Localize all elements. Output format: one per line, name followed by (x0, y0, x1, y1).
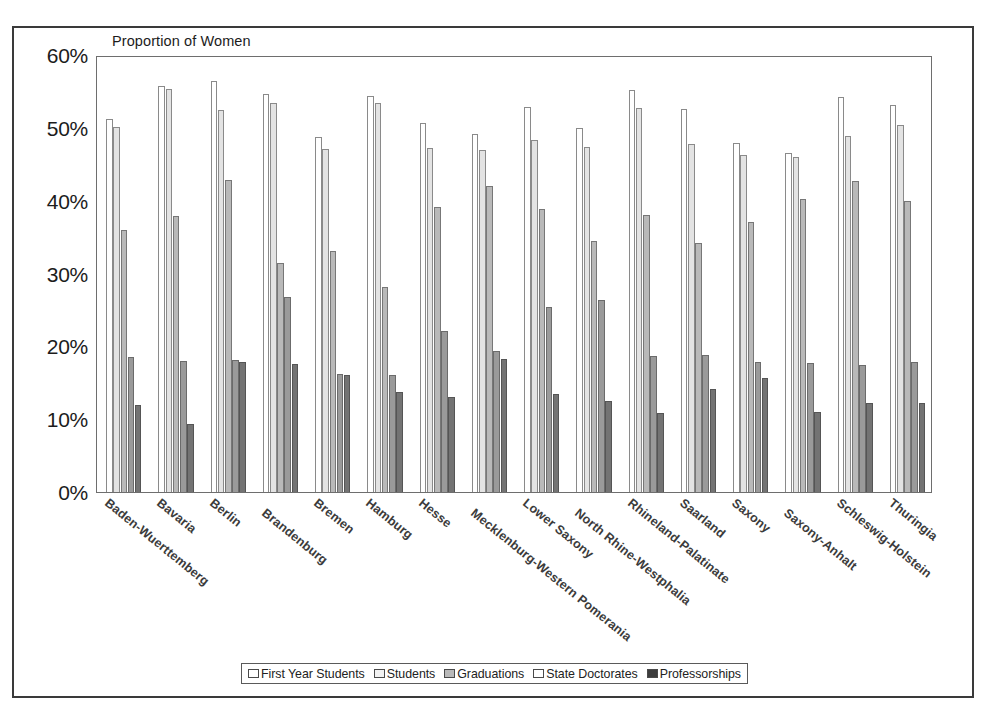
bar (239, 362, 246, 492)
y-axis-tick: 20% (47, 335, 88, 359)
bar-group (785, 57, 821, 492)
bar (584, 147, 591, 492)
y-axis: 0%10%20%30%40%50%60% (30, 56, 92, 493)
bar (263, 94, 270, 492)
bar (800, 199, 807, 492)
bar-group (733, 57, 769, 492)
bar (650, 356, 657, 492)
bar (904, 201, 911, 492)
bar (890, 105, 897, 492)
bar (420, 123, 427, 492)
bar (852, 181, 859, 492)
bar-group (890, 57, 926, 492)
figure-caption (16, 703, 956, 726)
bar-group (524, 57, 560, 492)
bar (911, 362, 918, 492)
bar (838, 97, 845, 492)
bar (748, 222, 755, 492)
bar (605, 401, 612, 492)
legend-label: State Doctorates (546, 667, 638, 681)
bar (322, 149, 329, 492)
bar (441, 331, 448, 492)
bar (375, 103, 382, 492)
bar (553, 394, 560, 492)
bar (598, 300, 605, 492)
bar (315, 137, 322, 492)
legend-swatch-icon (444, 669, 455, 678)
bar (501, 359, 508, 492)
bar (211, 81, 218, 492)
legend-item: Students (374, 667, 436, 681)
bars-container (97, 57, 931, 492)
bar-group (158, 57, 194, 492)
bar (695, 243, 702, 492)
bar (448, 397, 455, 492)
y-axis-tick: 40% (47, 190, 88, 214)
bar-group (263, 57, 299, 492)
y-axis-tick: 30% (47, 263, 88, 287)
legend-swatch-icon (533, 669, 544, 678)
bar (814, 412, 821, 492)
bar (710, 389, 717, 492)
legend-label: Graduations (457, 667, 524, 681)
bar-group (367, 57, 403, 492)
bar (636, 108, 643, 492)
bar (733, 143, 740, 492)
legend-swatch-icon (647, 669, 658, 678)
bar (173, 216, 180, 492)
bar (657, 413, 664, 492)
legend-label: First Year Students (261, 667, 365, 681)
bar (270, 103, 277, 492)
y-axis-tick: 50% (47, 117, 88, 141)
bar (546, 307, 553, 492)
legend-label: Students (387, 667, 436, 681)
x-axis-label: Berlin (207, 496, 244, 530)
bar (225, 180, 232, 492)
legend-item: State Doctorates (533, 667, 638, 681)
bar (629, 90, 636, 492)
bar-group (211, 57, 247, 492)
bar (486, 186, 493, 492)
bar (493, 351, 500, 492)
bar (807, 363, 814, 492)
x-axis-label: Bremen (311, 496, 357, 537)
bar-group (681, 57, 717, 492)
bar-group (576, 57, 612, 492)
bar (232, 360, 239, 492)
bar (576, 128, 583, 492)
bar (643, 215, 650, 492)
legend-item: Graduations (444, 667, 524, 681)
bar-group (629, 57, 665, 492)
bar (762, 378, 769, 492)
bar (688, 144, 695, 492)
bar (337, 374, 344, 492)
bar (702, 355, 709, 492)
chart-title: Proportion of Women (112, 33, 251, 49)
bar (166, 89, 173, 492)
x-axis-label: Brandenburg (259, 506, 330, 567)
x-axis-label: Hesse (416, 496, 454, 531)
bar (897, 125, 904, 492)
x-axis-label: Saxony (729, 496, 773, 535)
x-axis-label: Saarland (677, 496, 728, 541)
bar-group (420, 57, 456, 492)
bar (427, 148, 434, 493)
bar (344, 375, 351, 492)
bar (330, 251, 337, 492)
bar (785, 153, 792, 492)
bar-group (838, 57, 874, 492)
legend-item: Professorships (647, 667, 741, 681)
legend-label: Professorships (660, 667, 741, 681)
bar (434, 207, 441, 492)
bar-group (315, 57, 351, 492)
bar (539, 209, 546, 492)
bar (845, 136, 852, 492)
bar (472, 134, 479, 492)
bar (396, 392, 403, 492)
bar (524, 107, 531, 492)
bar (218, 110, 225, 492)
bar (135, 405, 142, 492)
bar (389, 375, 396, 492)
bar (866, 403, 873, 492)
bar-group (472, 57, 508, 492)
